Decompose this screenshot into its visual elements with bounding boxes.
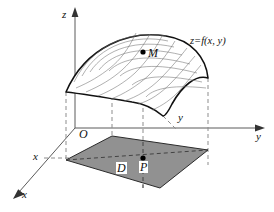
origin-label: O: [79, 128, 88, 140]
x-axis-label: x: [22, 189, 27, 200]
domain-region: [66, 136, 208, 188]
x-projection-label: x: [33, 151, 38, 162]
domain-label: D: [116, 162, 127, 174]
point-m-label: M: [148, 47, 158, 59]
point-p-label: P: [139, 161, 148, 173]
surface-equation-label: z=f(x, y): [190, 36, 226, 47]
point-m-marker: [140, 49, 145, 54]
surface-group: [66, 33, 208, 116]
z-axis-arrowhead: [72, 7, 79, 17]
y-axis-label: y: [256, 131, 261, 142]
surface-outline-path: [66, 35, 208, 116]
domain-polygon: [66, 136, 208, 188]
z-axis-label: z: [62, 9, 66, 20]
diagram-canvas: [0, 0, 274, 212]
y-projection-label: y: [178, 112, 183, 123]
figure-root: z y x O y x z=f(x, y) M D P: [0, 0, 274, 212]
